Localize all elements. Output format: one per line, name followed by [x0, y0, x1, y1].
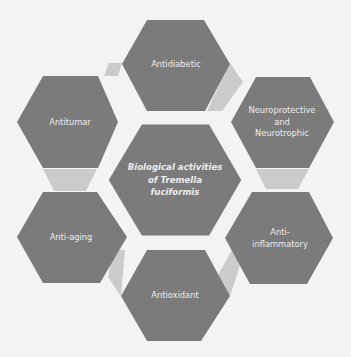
label-antidiabetic: Antidiabetic [151, 59, 201, 71]
connector-left [43, 169, 97, 191]
label-antitumar: Antitumar [49, 117, 91, 129]
connector-right [256, 169, 309, 189]
label-center-title: Biological activities of Tremella fucifo… [128, 161, 223, 199]
connector-top-left [104, 63, 122, 76]
label-anti-inflammatory: Anti- inflammatory [252, 227, 308, 250]
label-anti-aging: Anti-aging [50, 232, 93, 244]
label-neuroprotective: Neuroprotective and Neurotrophic [249, 105, 316, 140]
label-antioxidant: Antioxidant [151, 290, 198, 302]
